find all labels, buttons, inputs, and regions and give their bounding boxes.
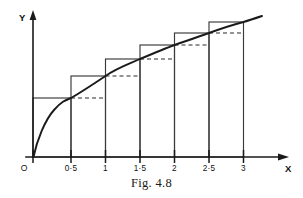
x-tick-label-0point5: 0·5 (65, 164, 78, 173)
rectangle-bar-5 (175, 33, 210, 157)
dashed-level-group (71, 33, 244, 98)
x-tick-label-3: 3 (241, 164, 246, 173)
rectangle-bar-1 (33, 98, 71, 157)
x-tick-label-2: 2 (172, 164, 177, 173)
figure-caption: Fig. 4.8 (0, 176, 303, 191)
rectangle-group (33, 22, 244, 157)
axes-group (26, 10, 289, 161)
y-axis-arrow-icon (30, 10, 37, 20)
x-tick-label-2point5: 2·5 (203, 164, 216, 173)
rectangle-bar-4 (140, 45, 175, 157)
x-tick-label-group: O 0·5 1 1·5 2 2·5 3 (21, 163, 246, 173)
y-axis-label: Y (19, 12, 26, 23)
x-tick-label-1: 1 (103, 164, 108, 173)
figure-container: O 0·5 1 1·5 2 2·5 3 Y X Fig. 4.8 (0, 0, 303, 198)
function-curve (34, 16, 263, 157)
riemann-sum-plot: O 0·5 1 1·5 2 2·5 3 Y X (0, 0, 303, 180)
rectangle-bar-6 (209, 22, 244, 157)
origin-label: O (21, 163, 28, 173)
x-axis-label: X (285, 163, 292, 174)
x-axis-arrow-icon (278, 153, 289, 160)
x-tick-label-1point5: 1·5 (134, 164, 147, 173)
